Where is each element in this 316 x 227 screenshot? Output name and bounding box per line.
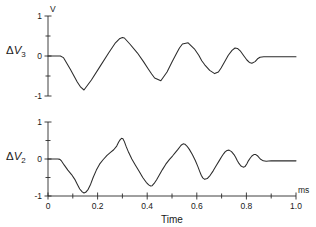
panel-delta-v3: 10-1VΔV3 xyxy=(6,4,296,101)
y-tick-label: -1 xyxy=(34,191,42,201)
x-tick-label: 0.8 xyxy=(240,201,252,211)
y-tick-label: 1 xyxy=(37,11,42,21)
series-label-delta-v3: ΔV3 xyxy=(6,44,26,59)
series-label-delta-v2: ΔV2 xyxy=(6,150,26,165)
y-tick-label: 0 xyxy=(37,51,42,61)
x-tick-label: 0.4 xyxy=(141,201,153,211)
y-tick-label: -1 xyxy=(34,91,42,101)
x-tick-label: 0.6 xyxy=(191,201,203,211)
y-axis-unit: V xyxy=(50,4,56,14)
x-tick-label: 1.0 xyxy=(290,201,302,211)
x-axis: 00.20.40.60.81.0msTime xyxy=(46,185,310,225)
y-tick-label: 0 xyxy=(37,154,42,164)
waveform-figure: 10-1VΔV3 10-1ΔV2 00.20.40.60.81.0msTime xyxy=(0,0,316,227)
x-axis-unit: ms xyxy=(298,185,309,195)
x-tick-label: 0.2 xyxy=(92,201,104,211)
trace-delta-v2 xyxy=(48,138,296,193)
trace-delta-v3 xyxy=(48,38,296,90)
x-axis-title: Time xyxy=(161,214,183,225)
plot-canvas: 10-1VΔV3 10-1ΔV2 00.20.40.60.81.0msTime xyxy=(0,0,316,227)
panel-delta-v2: 10-1ΔV2 xyxy=(6,117,296,201)
x-tick-label: 0 xyxy=(46,201,51,211)
y-tick-label: 1 xyxy=(37,117,42,127)
